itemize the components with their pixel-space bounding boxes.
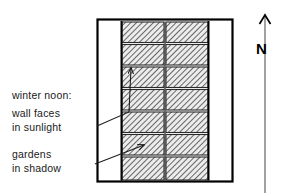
hatched-block	[166, 90, 208, 111]
annotation-gardens: gardens	[12, 148, 51, 161]
hatched-block	[122, 135, 164, 156]
hatched-block	[122, 157, 164, 180]
hatched-block	[166, 22, 208, 43]
hatched-block	[122, 112, 164, 133]
north-label: N	[256, 40, 267, 57]
hatched-block	[166, 135, 208, 156]
annotation-in-sunlight: in sunlight	[12, 121, 61, 134]
hatched-block	[166, 45, 208, 66]
annotation-in-shadow: in shadow	[12, 162, 61, 175]
annotation-winter-noon: winter noon:	[12, 89, 72, 102]
hatched-block	[166, 112, 208, 133]
hatched-block	[122, 67, 164, 88]
hatched-block	[122, 90, 164, 111]
open-strip-left	[99, 21, 121, 180]
hatched-block	[122, 22, 164, 43]
annotation-wall-faces: wall faces	[12, 107, 60, 120]
hatched-block	[166, 157, 208, 180]
hatched-block	[166, 67, 208, 88]
open-strip-right	[209, 21, 231, 180]
hatched-block	[122, 45, 164, 66]
